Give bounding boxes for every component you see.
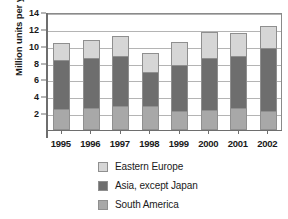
legend-item[interactable]: Asia, except Japan bbox=[98, 176, 198, 195]
x-tick-mark-1995 bbox=[61, 130, 62, 134]
x-tick-mark-1996 bbox=[90, 130, 91, 134]
legend-label: South America bbox=[115, 199, 179, 210]
gridline-14 bbox=[47, 14, 281, 15]
bar-segment-south-america-2000 bbox=[201, 110, 218, 130]
bar-segment-asia-except-japan-1999 bbox=[171, 65, 188, 111]
y-axis-line bbox=[46, 13, 48, 138]
bar-segment-south-america-2001 bbox=[230, 108, 247, 130]
bar-segment-eastern-europe-2001 bbox=[230, 33, 247, 56]
x-axis-line bbox=[46, 130, 282, 131]
y-tick-label-6: 6 bbox=[0, 75, 46, 85]
y-tick-label-8: 8 bbox=[0, 59, 46, 69]
legend-item[interactable]: Eastern Europe bbox=[98, 157, 198, 176]
bar-segment-eastern-europe-1997 bbox=[112, 36, 129, 56]
bar-2002[interactable] bbox=[260, 26, 277, 130]
bar-segment-asia-except-japan-2002 bbox=[260, 48, 277, 110]
bar-segment-eastern-europe-1996 bbox=[83, 40, 100, 59]
stacked-bar-chart: Million units per year 2468101214 199519… bbox=[0, 0, 288, 219]
bar-2000[interactable] bbox=[201, 32, 218, 130]
legend-item[interactable]: South America bbox=[98, 195, 198, 214]
bar-segment-south-america-1996 bbox=[83, 108, 100, 130]
bar-segment-eastern-europe-1999 bbox=[171, 42, 188, 66]
bar-segment-south-america-1998 bbox=[142, 106, 159, 130]
bar-1995[interactable] bbox=[53, 43, 70, 130]
plot-area bbox=[46, 13, 282, 131]
bar-segment-asia-except-japan-1998 bbox=[142, 72, 159, 107]
chart-legend: Eastern EuropeAsia, except JapanSouth Am… bbox=[98, 157, 198, 214]
bar-1997[interactable] bbox=[112, 36, 129, 130]
legend-swatch-icon bbox=[98, 162, 108, 172]
bar-segment-asia-except-japan-2000 bbox=[201, 58, 218, 110]
bar-segment-south-america-1999 bbox=[171, 111, 188, 130]
bar-segment-asia-except-japan-1997 bbox=[112, 56, 129, 106]
bar-1999[interactable] bbox=[171, 42, 188, 130]
y-tick-label-10: 10 bbox=[0, 42, 46, 52]
bar-segment-eastern-europe-2000 bbox=[201, 32, 218, 57]
bar-segment-south-america-1995 bbox=[53, 109, 70, 130]
y-tick-label-12: 12 bbox=[0, 25, 46, 35]
x-axis-label-2002: 2002 bbox=[250, 138, 284, 149]
y-tick-label-4: 4 bbox=[0, 92, 46, 102]
gridline-12 bbox=[47, 31, 281, 32]
bar-2001[interactable] bbox=[230, 33, 247, 130]
x-tick-mark-2002 bbox=[267, 130, 268, 134]
x-tick-mark-1997 bbox=[120, 130, 121, 134]
bar-1998[interactable] bbox=[142, 53, 159, 130]
bar-segment-asia-except-japan-1995 bbox=[53, 60, 70, 109]
y-tick-label-2: 2 bbox=[0, 109, 46, 119]
x-tick-mark-1999 bbox=[179, 130, 180, 134]
bar-segment-asia-except-japan-2001 bbox=[230, 56, 247, 108]
legend-label: Asia, except Japan bbox=[115, 180, 198, 191]
bar-1996[interactable] bbox=[83, 40, 100, 130]
legend-swatch-icon bbox=[98, 200, 108, 210]
bar-segment-eastern-europe-1995 bbox=[53, 43, 70, 60]
bar-segment-eastern-europe-2002 bbox=[260, 26, 277, 48]
bar-segment-asia-except-japan-1996 bbox=[83, 58, 100, 108]
x-tick-mark-2000 bbox=[208, 130, 209, 134]
y-tick-label-14: 14 bbox=[0, 8, 46, 18]
bar-segment-south-america-2002 bbox=[260, 111, 277, 130]
x-tick-mark-1998 bbox=[149, 130, 150, 134]
legend-label: Eastern Europe bbox=[115, 161, 183, 172]
legend-swatch-icon bbox=[98, 181, 108, 191]
x-tick-mark-2001 bbox=[238, 130, 239, 134]
bar-segment-south-america-1997 bbox=[112, 106, 129, 130]
bar-segment-eastern-europe-1998 bbox=[142, 53, 159, 72]
